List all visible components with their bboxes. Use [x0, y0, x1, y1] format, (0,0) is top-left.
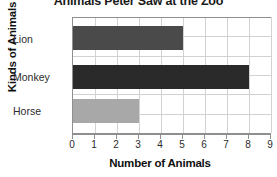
x-tick-label: 5 [172, 139, 192, 150]
category-label-lion: Lion [13, 33, 73, 45]
x-tick-label: 3 [128, 139, 148, 150]
bar-monkey [73, 65, 249, 89]
gridline-horizontal [73, 17, 271, 18]
x-tick-label: 4 [150, 139, 170, 150]
category-label-horse: Horse [13, 105, 73, 117]
category-label-monkey: Monkey [13, 71, 73, 83]
gridline-horizontal [73, 56, 271, 57]
plot-area [72, 17, 271, 133]
x-tick-label: 1 [84, 139, 104, 150]
x-tick-label: 7 [216, 139, 236, 150]
y-axis-title: Kinds of Animals [6, 0, 18, 102]
x-tick-label: 8 [238, 139, 258, 150]
x-axis-title: Number of Animals [60, 157, 260, 169]
x-axis-line [72, 133, 271, 135]
chart-title: Animals Peter Saw at the Zoo [0, 0, 277, 8]
bar-lion [73, 26, 183, 50]
x-tick-label: 6 [194, 139, 214, 150]
bar-horse [73, 99, 139, 123]
x-tick-label: 0 [62, 139, 82, 150]
x-tick-label: 9 [260, 139, 277, 150]
gridline-vertical [271, 17, 272, 133]
x-tick-label: 2 [106, 139, 126, 150]
gridline-horizontal [73, 94, 271, 95]
